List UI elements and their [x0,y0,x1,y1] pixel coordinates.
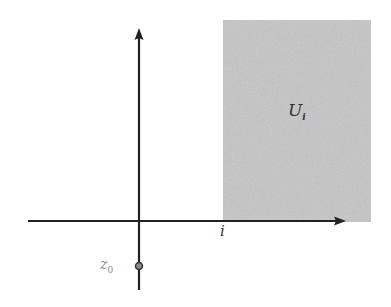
region-label-main: U [288,100,302,120]
point-label: z0 [100,256,113,275]
region-label-sub: i [302,112,305,122]
point-label-sub: 0 [107,265,113,275]
diagram-canvas [0,0,391,307]
region-label: Ui [288,100,306,122]
point-z0 [136,263,143,270]
axis-label-i: i [220,222,225,240]
